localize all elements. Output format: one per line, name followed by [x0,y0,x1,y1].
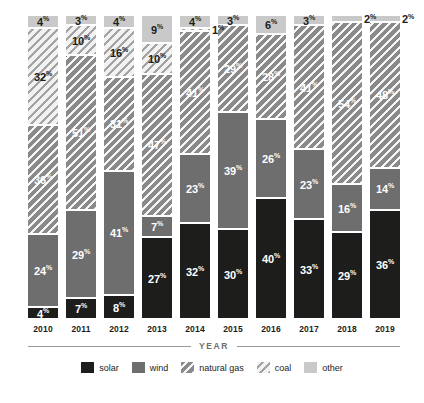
bar-segment-coal-2013: 10% [142,43,172,73]
bar-segment-solar-2017: 33% [294,219,324,319]
legend-label: solar [99,363,119,373]
segment-value-label: 51% [72,126,90,139]
segment-value-label: 3% [75,14,87,27]
bar-segment-wind-2013: 7% [142,216,172,237]
bar-segment-solar-2014: 32% [180,223,210,319]
x-tick-2014: 2014 [180,324,210,334]
legend-item-solar[interactable]: solar [81,362,119,373]
segment-value-label: 31% [110,117,128,130]
bar-segment-wind-2015: 39% [218,112,248,229]
segment-value-label: 23% [300,178,318,191]
bar-column-2018: 2%54%16%29% [332,16,362,319]
x-tick-2015: 2015 [218,324,248,334]
bar-segment-other-2013: 9% [142,16,172,43]
x-tick-2016: 2016 [256,324,286,334]
legend-swatch-natural-gas-icon [181,362,194,373]
segment-value-label: 48% [376,88,394,101]
x-tick-2010: 2010 [28,324,58,334]
chart-legend: solarwindnatural gascoalother [0,362,424,373]
legend-item-other[interactable]: other [304,362,343,373]
segment-value-label: 29% [224,62,242,75]
bar-segment-other-2010: 4% [28,16,58,28]
segment-value-label: 2% [364,12,376,25]
segment-value-label: 16% [338,202,356,215]
segment-value-label: 32% [186,265,204,278]
bar-segment-natural-gas-2011: 51% [66,55,96,210]
bar-segment-wind-2011: 29% [66,210,96,298]
bar-segment-other-2016: 6% [256,16,286,34]
bar-segment-solar-2019: 36% [370,210,400,319]
bar-column-2016: 6%28%26%40% [256,16,286,319]
plot-area: 4%32%36%24%4%3%10%51%29%7%4%16%31%41%8%9… [28,16,400,319]
bar-segment-wind-2014: 23% [180,154,210,223]
segment-value-label: 9% [151,23,163,36]
bar-segment-wind-2010: 24% [28,234,58,307]
segment-value-label: 23% [186,182,204,195]
bar-column-2010: 4%32%36%24%4% [28,16,58,319]
segment-value-label: 36% [376,258,394,271]
bar-column-2013: 9%10%47%7%27% [142,16,172,319]
legend-item-wind[interactable]: wind [132,362,169,373]
segment-value-label: 4% [189,15,201,28]
legend-swatch-other-icon [304,362,317,373]
bar-segment-wind-2019: 14% [370,168,400,210]
bar-segment-other-2012: 4% [104,16,134,28]
bar-segment-natural-gas-2017: 41% [294,25,324,149]
segment-value-label: 39% [224,164,242,177]
bar-segment-solar-2015: 30% [218,229,248,319]
segment-value-label: 8% [113,301,125,314]
segment-value-label: 3% [303,14,315,27]
bar-column-2014: 4%1%41%23%32% [180,16,210,319]
legend-label: other [322,363,343,373]
x-tick-2011: 2011 [66,324,96,334]
bar-segment-other-2011: 3% [66,16,96,25]
segment-value-label: 29% [338,269,356,282]
bar-segment-natural-gas-2015: 29% [218,25,248,112]
legend-item-natural-gas[interactable]: natural gas [181,362,244,373]
x-tick-2019: 2019 [370,324,400,334]
segment-value-label: 26% [262,152,280,165]
bar-column-2015: 3%29%39%30% [218,16,248,319]
segment-value-label: 2% [402,12,414,25]
bar-column-2011: 3%10%51%29%7% [66,16,96,319]
axis-rule-left [28,346,191,347]
segment-value-label: 54% [338,97,356,110]
segment-value-label: 4% [37,307,49,320]
legend-swatch-coal-icon [257,362,270,373]
legend-swatch-wind-icon [132,362,145,373]
bar-segment-wind-2018: 16% [332,184,362,232]
bar-segment-wind-2017: 23% [294,149,324,219]
bar-segment-other-2017: 3% [294,16,324,25]
segment-value-label: 36% [34,173,52,186]
stacked-bar-chart: 4%32%36%24%4%3%10%51%29%7%4%16%31%41%8%9… [0,0,424,403]
segment-value-label: 41% [300,81,318,94]
bar-segment-solar-2018: 29% [332,232,362,319]
segment-value-label: 29% [72,248,90,261]
x-axis-title: YEAR [199,341,229,351]
bar-column-2012: 4%16%31%41%8% [104,16,134,319]
bar-segment-natural-gas-2019: 48% [370,22,400,167]
bar-segment-solar-2013: 27% [142,237,172,319]
axis-rule-right [237,346,400,347]
x-tick-2012: 2012 [104,324,134,334]
x-tick-2017: 2017 [294,324,324,334]
bar-segment-coal-2012: 16% [104,28,134,76]
bar-segment-natural-gas-2014: 41% [180,31,210,154]
segment-value-label: 40% [262,252,280,265]
bar-segment-coal-2011: 10% [66,25,96,55]
bar-segment-solar-2012: 8% [104,295,134,319]
legend-item-coal[interactable]: coal [257,362,292,373]
legend-swatch-solar-icon [81,362,94,373]
bar-segment-solar-2010: 4% [28,307,58,319]
segment-value-label: 27% [148,272,166,285]
segment-value-label: 7% [151,220,163,233]
segment-value-label: 32% [34,70,52,83]
bar-segment-coal-2010: 32% [28,28,58,125]
bar-column-2017: 3%41%23%33% [294,16,324,319]
x-tick-2018: 2018 [332,324,362,334]
segment-value-label: 41% [110,226,128,239]
segment-value-label: 6% [265,18,277,31]
bar-segment-natural-gas-2016: 28% [256,34,286,119]
legend-label: coal [275,363,292,373]
segment-value-label: 3% [227,14,239,27]
